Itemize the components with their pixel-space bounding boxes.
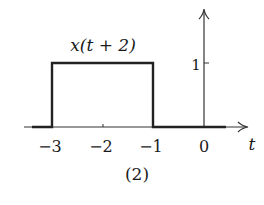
x-tick-label-minus-1: −1: [139, 137, 163, 156]
y-tick-label-1: 1: [191, 56, 201, 74]
x-tick-label-minus-2: −2: [89, 137, 113, 156]
x-tick-label-0: 0: [199, 137, 209, 156]
x-axis-label: t: [249, 134, 256, 154]
x-tick-label-minus-3: −3: [38, 137, 62, 156]
signal-plot: x(t + 2) 1 −3 −2 −1 0 t (2): [0, 0, 264, 205]
figure-caption: (2): [125, 164, 149, 184]
signal-title: x(t + 2): [70, 35, 136, 55]
